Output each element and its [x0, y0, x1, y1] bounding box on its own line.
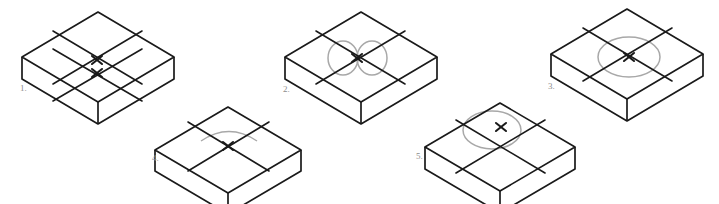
- figure-2-label: 2.: [283, 84, 290, 94]
- figure-1-label: 1.: [20, 83, 27, 93]
- isometric-drawing-canvas: 1. 2.: [0, 0, 719, 204]
- figure-3-label: 3.: [548, 81, 555, 91]
- technical-drawing-svg: 1. 2.: [0, 0, 719, 204]
- figure-4-label: 4.: [152, 153, 159, 163]
- figure-5-label: 5.: [416, 151, 423, 161]
